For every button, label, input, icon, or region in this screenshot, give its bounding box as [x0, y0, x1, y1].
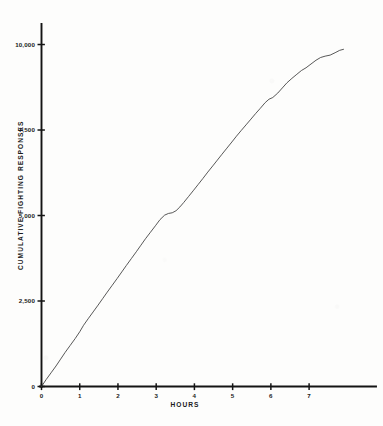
x-axis-group: 01234567 HOURS — [40, 383, 376, 408]
y-tick-label-0: 0 — [31, 383, 35, 390]
data-series-group — [42, 49, 344, 386]
x-tick-label-0: 0 — [40, 392, 44, 399]
y-axis-group: 02,5005,0007,50010,000 CUMULATIVE FIGHTI… — [15, 24, 45, 390]
y-tick-label-10,000: 10,000 — [15, 41, 35, 48]
x-tick-label-4: 4 — [193, 392, 197, 399]
x-tick-label-2: 2 — [116, 392, 120, 399]
x-tick-label-6: 6 — [269, 392, 273, 399]
x-tick-label-7: 7 — [307, 392, 311, 399]
y-axis-title: CUMULATIVE FIGHTING RESPONSES — [17, 121, 24, 270]
y-tick-label-2,500: 2,500 — [19, 297, 36, 304]
x-tick-label-1: 1 — [78, 392, 82, 399]
x-tick-labels: 01234567 — [40, 392, 312, 399]
x-tick-label-5: 5 — [231, 392, 235, 399]
x-axis-title: HOURS — [170, 401, 199, 408]
cumulative-response-chart: 02,5005,0007,50010,000 CUMULATIVE FIGHTI… — [0, 0, 383, 426]
x-tick-label-3: 3 — [154, 392, 158, 399]
cumulative-response-curve — [42, 49, 344, 386]
figure-canvas: 02,5005,0007,50010,000 CUMULATIVE FIGHTI… — [0, 0, 383, 426]
